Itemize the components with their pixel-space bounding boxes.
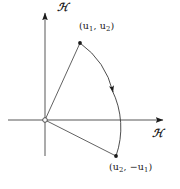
label-seg-open: (u — [109, 161, 119, 172]
point-u2-minus-u1-dot — [114, 154, 118, 158]
rotation-arc-head — [80, 43, 113, 92]
x-axis-label: ℋ — [151, 128, 163, 139]
point-u1-u2-dot — [78, 41, 82, 45]
vector-to-u1-u2 — [45, 43, 80, 120]
label-seg-mid: , −u — [123, 161, 144, 172]
rotation-arc-tail — [112, 90, 121, 156]
rotation-diagram: (u1, u2) (u2, −u1) ℋ ℋ — [0, 0, 180, 189]
label-seg-sub1: 2 — [119, 166, 123, 174]
label-seg-close: ) — [148, 161, 152, 172]
origin-marker — [43, 118, 48, 123]
label-seg-sub2: 1 — [144, 166, 148, 174]
point-u1-u2-label: (u1, u2) — [79, 21, 114, 31]
label-seg-sub2: 2 — [106, 25, 110, 33]
label-seg-sub1: 1 — [89, 25, 93, 33]
point-u2-minus-u1-label: (u2, −u1) — [109, 162, 152, 172]
label-seg-mid: , u — [93, 20, 105, 31]
vector-to-u2-minus-u1 — [45, 120, 116, 156]
label-seg-close: ) — [110, 20, 114, 31]
label-seg-open: (u — [79, 20, 89, 31]
y-axis-label: ℋ — [56, 2, 68, 13]
